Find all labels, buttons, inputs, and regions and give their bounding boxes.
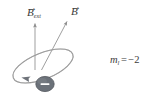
vector-arrow-icon-bext: →	[27, 2, 36, 7]
label-b-ext-subscript: ext	[34, 13, 41, 19]
quantum-number-value: −2	[128, 54, 139, 65]
quantum-number-variable: m	[110, 54, 118, 65]
physics-figure: → B ext → B ml=−2	[0, 0, 157, 97]
quantum-number-equals: =	[121, 54, 127, 65]
label-b-total: → B	[71, 6, 78, 17]
label-b-total-glyph: → B	[71, 6, 78, 17]
orbit-direction-arrowhead-icon	[21, 77, 30, 82]
quantum-number-subscript: l	[118, 59, 120, 66]
electron-particle-icon	[36, 76, 54, 91]
vector-arrow-icon-b: →	[71, 1, 80, 6]
diagram-canvas	[0, 0, 157, 97]
quantum-number-label: ml=−2	[110, 55, 140, 67]
field-vector-arrow-icon-b	[42, 22, 68, 71]
label-b-ext: → B ext	[27, 7, 41, 19]
label-b-ext-glyph: → B	[27, 7, 34, 18]
